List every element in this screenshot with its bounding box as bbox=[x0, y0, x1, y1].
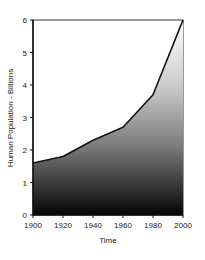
x-tick-label: 2000 bbox=[174, 221, 192, 230]
x-axis-title: Time bbox=[99, 236, 117, 245]
x-tick-label: 1900 bbox=[24, 221, 42, 230]
y-axis-ticks: 0123456 bbox=[23, 16, 33, 220]
x-tick-label: 1940 bbox=[84, 221, 102, 230]
x-tick-label: 1980 bbox=[144, 221, 162, 230]
y-axis-title: Human Population - Billions bbox=[6, 69, 15, 167]
y-tick-label: 4 bbox=[23, 81, 28, 90]
x-axis-ticks: 190019201940196019802000 bbox=[24, 215, 192, 230]
y-tick-label: 6 bbox=[23, 16, 28, 25]
y-tick-label: 5 bbox=[23, 49, 28, 58]
y-tick-label: 1 bbox=[23, 179, 28, 188]
y-tick-label: 0 bbox=[23, 211, 28, 220]
y-tick-label: 3 bbox=[23, 114, 28, 123]
x-tick-label: 1960 bbox=[114, 221, 132, 230]
x-tick-label: 1920 bbox=[54, 221, 72, 230]
population-area-chart: 0123456 190019201940196019802000 Time Hu… bbox=[0, 0, 205, 260]
y-tick-label: 2 bbox=[23, 146, 28, 155]
